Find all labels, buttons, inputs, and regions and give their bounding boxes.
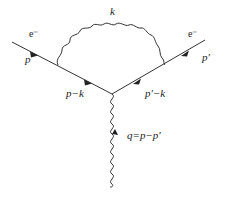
feynman-diagram: e⁻ p k p−k p′−k e⁻ p′ q=p−p′ xyxy=(0,0,228,197)
arrow-icon xyxy=(84,79,92,85)
outgoing-electron-line xyxy=(112,40,205,94)
label-incoming-momentum: p xyxy=(24,53,31,65)
label-left-internal-momentum: p−k xyxy=(65,87,85,99)
label-photon-momentum: q=p−p′ xyxy=(127,129,161,141)
label-outgoing-momentum: p′ xyxy=(201,51,211,63)
external-photon-line xyxy=(110,94,113,187)
label-right-internal-momentum: p′−k xyxy=(144,87,166,99)
arrow-icon xyxy=(112,129,118,135)
label-incoming-particle: e⁻ xyxy=(29,28,38,39)
label-outgoing-particle: e⁻ xyxy=(188,28,197,39)
label-loop-momentum: k xyxy=(110,5,116,17)
loop-photon-line xyxy=(57,23,165,65)
